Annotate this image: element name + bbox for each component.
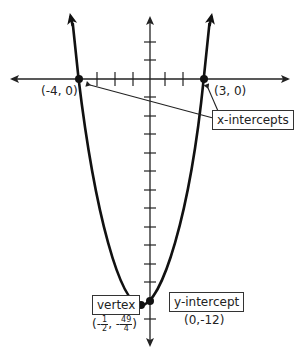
y-intercept-coordinate: (0,-12): [184, 313, 224, 327]
vertex-y-fraction: 494: [120, 316, 132, 333]
vertex-coordinate: (-12, -494): [92, 316, 137, 333]
x-intercepts-callout: x-intercepts: [212, 110, 294, 130]
graph-canvas: [0, 0, 298, 353]
leader-line-left: [90, 85, 213, 118]
x-intercept-right-point: [200, 75, 208, 83]
y-intercept-callout: y-intercept: [169, 292, 244, 312]
x-intercept-left-label: (-4, 0): [41, 84, 78, 98]
parabola-curve: [73, 23, 210, 306]
parabola-left-arrow: [71, 16, 73, 26]
parabola-right-arrow: [210, 16, 212, 26]
x-intercept-left-point: [75, 75, 83, 83]
x-intercept-right-label: (3, 0): [214, 84, 246, 98]
vertex-callout: vertex: [92, 295, 140, 315]
y-intercept-point: [146, 297, 154, 305]
